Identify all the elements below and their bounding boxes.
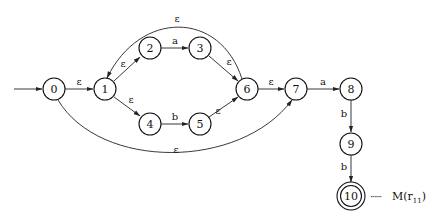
state-4: 4 bbox=[139, 113, 161, 135]
edge-label-6-7: ε bbox=[268, 76, 273, 87]
edge-label-9-10: b bbox=[341, 161, 347, 172]
state-label: 0 bbox=[51, 83, 58, 96]
annotation-main: M(r bbox=[392, 190, 414, 203]
state-3: 3 bbox=[189, 37, 211, 59]
state-9: 9 bbox=[340, 133, 362, 155]
state-label: 3 bbox=[197, 42, 204, 55]
edge-label-5-6: ε bbox=[215, 105, 220, 116]
machine-annotation: ······ M(r11) bbox=[370, 190, 426, 205]
edge-label-1-2: ε bbox=[120, 58, 125, 69]
state-1: 1 bbox=[94, 78, 116, 100]
state-8: 8 bbox=[340, 78, 362, 100]
state-5: 5 bbox=[189, 113, 211, 135]
state-label: 4 bbox=[147, 118, 154, 131]
edge-label-4-5: b bbox=[172, 111, 178, 122]
state-label: 6 bbox=[244, 83, 251, 96]
state-label: 8 bbox=[348, 83, 355, 96]
edge-5-6 bbox=[209, 97, 238, 117]
edge-label-0-1: ε bbox=[76, 76, 81, 87]
edge-label-8-9: b bbox=[341, 108, 347, 119]
state-label: 10 bbox=[344, 190, 358, 203]
state-label: 9 bbox=[348, 138, 355, 151]
state-10-accept: 10 bbox=[337, 182, 365, 210]
edge-label-0-7: ε bbox=[173, 144, 178, 155]
state-0: 0 bbox=[43, 78, 65, 100]
annotation-subscript: 11 bbox=[413, 197, 422, 205]
state-label: 2 bbox=[147, 42, 154, 55]
annotation-dots: ······ bbox=[370, 192, 382, 202]
state-2: 2 bbox=[139, 37, 161, 59]
edge-label-2-3: a bbox=[172, 35, 178, 46]
edge-label-6-1: ε bbox=[174, 13, 179, 24]
edge-1-4 bbox=[114, 97, 140, 116]
state-label: 7 bbox=[293, 83, 300, 96]
annotation-close: ) bbox=[422, 190, 426, 203]
nfa-diagram: ε ε a ε ε b ε ε ε ε a b bbox=[0, 0, 428, 219]
states: 0 1 2 3 4 5 6 7 bbox=[43, 37, 365, 210]
edge-label-1-4: ε bbox=[128, 94, 133, 105]
annotation-text: M(r11) bbox=[392, 190, 426, 205]
state-label: 1 bbox=[102, 83, 109, 96]
state-7: 7 bbox=[285, 78, 307, 100]
edge-label-7-8: a bbox=[320, 76, 326, 87]
state-label: 5 bbox=[197, 118, 204, 131]
edge-label-3-6: ε bbox=[226, 56, 231, 67]
state-6: 6 bbox=[236, 78, 258, 100]
